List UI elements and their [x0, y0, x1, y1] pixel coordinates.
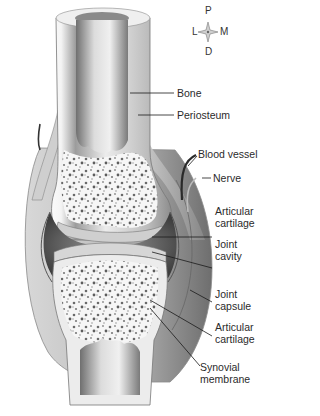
compass-lateral-label: L: [192, 27, 198, 37]
label-joint-capsule: Joint capsule: [215, 288, 251, 312]
label-periosteum: Periosteum: [177, 109, 230, 121]
label-text: Bone: [177, 87, 202, 99]
orientation-compass-icon: [198, 22, 218, 42]
label-articular-cartilage-lower: Articular cartilage: [215, 321, 255, 345]
label-nerve: Nerve: [213, 172, 241, 184]
label-text-line2: cavity: [215, 250, 242, 262]
label-bone: Bone: [177, 87, 202, 99]
label-text: Blood vessel: [198, 148, 258, 160]
label-joint-cavity: Joint cavity: [215, 238, 242, 262]
label-text: Periosteum: [177, 109, 230, 121]
label-blood-vessel: Blood vessel: [198, 148, 258, 160]
upper-spongy-bone: [61, 150, 157, 228]
label-text-line2: cartilage: [215, 217, 255, 229]
label-text-line2: cartilage: [215, 333, 255, 345]
label-text-line1: Articular: [215, 321, 255, 333]
label-text-line2: membrane: [200, 373, 250, 385]
label-articular-cartilage-upper: Articular cartilage: [215, 205, 255, 229]
compass-proximal-label: P: [205, 6, 212, 16]
label-text-line1: Joint: [215, 238, 242, 250]
label-text-line1: Joint: [215, 288, 251, 300]
label-synovial-membrane: Synovial membrane: [200, 361, 250, 385]
label-text-line1: Synovial: [200, 361, 250, 373]
compass-distal-label: D: [205, 47, 212, 57]
label-text-line1: Articular: [215, 205, 255, 217]
label-text-line2: capsule: [215, 300, 251, 312]
compass-medial-label: M: [220, 27, 228, 37]
lower-spongy-bone: [61, 261, 159, 344]
label-text: Nerve: [213, 172, 241, 184]
